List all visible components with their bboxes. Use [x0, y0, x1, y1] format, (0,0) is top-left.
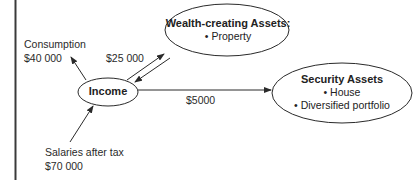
income-title: Income	[78, 85, 138, 98]
consumption-text: Consumption	[24, 37, 86, 51]
wealth-assets-item: • Property	[165, 30, 291, 43]
wealth-assets-title: Wealth-creating Assets:	[165, 17, 291, 30]
security-assets-item: • Diversified portfolio	[272, 99, 412, 112]
salaries-text: Salaries after tax	[45, 145, 124, 159]
to-wealth-amount: $25 000	[106, 51, 144, 65]
security-assets-title: Security Assets	[272, 73, 412, 86]
security-assets-node: Security Assets • House • Diversified po…	[272, 73, 412, 112]
security-assets-item: • House	[272, 86, 412, 99]
salaries-label: Salaries after tax $70 000	[45, 145, 124, 173]
wealth-assets-node: Wealth-creating Assets: • Property	[165, 17, 291, 43]
consumption-amount: $40 000	[24, 51, 86, 65]
salaries-amount: $70 000	[45, 159, 124, 173]
to-security-amount: $5000	[186, 93, 215, 107]
consumption-label: Consumption $40 000	[24, 37, 86, 65]
income-node: Income	[78, 85, 138, 98]
salaries-arrow	[70, 106, 93, 142]
